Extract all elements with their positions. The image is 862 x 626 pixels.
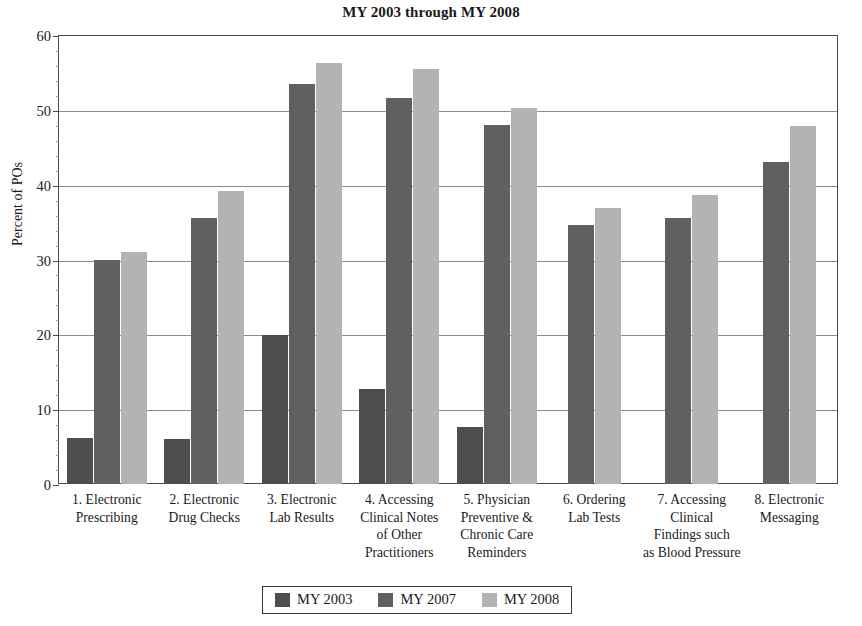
y-tick-label: 20 [37, 327, 52, 344]
bar-group [643, 35, 741, 484]
legend-label: MY 2008 [504, 591, 559, 608]
bar-my-2007 [386, 98, 412, 484]
bar-my-2007 [289, 84, 315, 484]
bar-my-2008 [595, 208, 621, 484]
bar-my-2003 [359, 389, 385, 484]
x-label-line: 2. Electronic [148, 491, 262, 509]
y-tick-label: 60 [37, 28, 52, 45]
x-label-line: Preventive & [440, 509, 554, 527]
bar-my-2003 [164, 439, 190, 484]
x-label-line: 8. Electronic [733, 491, 847, 509]
bar-my-2003 [262, 335, 288, 484]
y-tick-label: 30 [37, 252, 52, 269]
x-label-line: Findings such [635, 526, 749, 544]
bar-my-2007 [665, 218, 691, 484]
bar-my-2008 [218, 191, 244, 484]
x-label-line: 7. Accessing [635, 491, 749, 509]
bars-layer [58, 35, 838, 484]
x-axis-category-label: 8. ElectronicMessaging [733, 491, 847, 526]
bar-my-2008 [316, 63, 342, 484]
x-label-line: Practitioners [343, 544, 457, 562]
x-label-line: Lab Results [245, 509, 359, 527]
y-axis-label: Percent of POs [10, 134, 26, 274]
y-tick-label: 10 [37, 402, 52, 419]
x-label-line: Prescribing [50, 509, 164, 527]
x-label-line: 3. Electronic [245, 491, 359, 509]
y-tick-mark [53, 485, 59, 486]
x-label-line: of Other [343, 526, 457, 544]
x-label-line: 4. Accessing [343, 491, 457, 509]
bar-group [546, 35, 644, 484]
bar-my-2003 [457, 427, 483, 484]
bar-my-2008 [511, 108, 537, 484]
y-tick-label: 40 [37, 177, 52, 194]
legend-swatch-icon [275, 593, 290, 607]
bar-my-2007 [94, 260, 120, 485]
x-label-line: Drug Checks [148, 509, 262, 527]
x-axis-category-label: 7. AccessingClinicalFindings suchas Bloo… [635, 491, 749, 561]
bar-my-2007 [568, 225, 594, 484]
bar-my-2008 [692, 195, 718, 484]
bar-group [58, 35, 156, 484]
x-axis-category-label: 1. ElectronicPrescribing [50, 491, 164, 526]
bar-group [741, 35, 839, 484]
x-axis-labels: 1. ElectronicPrescribing2. ElectronicDru… [58, 491, 838, 573]
legend-label: MY 2007 [400, 591, 455, 608]
legend-item[interactable]: MY 2007 [378, 591, 455, 608]
y-tick-label: 50 [37, 102, 52, 119]
x-label-line: Lab Tests [538, 509, 652, 527]
x-axis-category-label: 4. AccessingClinical Notesof OtherPracti… [343, 491, 457, 561]
bar-my-2008 [790, 126, 816, 484]
bar-my-2008 [413, 69, 439, 484]
legend-swatch-icon [378, 593, 393, 607]
x-axis-category-label: 6. OrderingLab Tests [538, 491, 652, 526]
x-axis-category-label: 3. ElectronicLab Results [245, 491, 359, 526]
bar-group [253, 35, 351, 484]
bar-my-2007 [763, 162, 789, 484]
legend-label: MY 2003 [297, 591, 352, 608]
bar-my-2007 [484, 125, 510, 484]
chart-legend: MY 2003MY 2007MY 2008 [262, 586, 572, 614]
x-label-line: 1. Electronic [50, 491, 164, 509]
chart-title: MY 2003 through MY 2008 [0, 4, 862, 21]
x-axis-category-label: 2. ElectronicDrug Checks [148, 491, 262, 526]
bar-my-2007 [191, 218, 217, 484]
x-label-line: 6. Ordering [538, 491, 652, 509]
x-label-line: Clinical Notes [343, 509, 457, 527]
legend-swatch-icon [482, 593, 497, 607]
legend-item[interactable]: MY 2008 [482, 591, 559, 608]
legend-item[interactable]: MY 2003 [275, 591, 352, 608]
x-label-line: Clinical [635, 509, 749, 527]
bar-my-2008 [121, 252, 147, 484]
x-label-line: 5. Physician [440, 491, 554, 509]
bar-group [156, 35, 254, 484]
x-label-line: Chronic Care [440, 526, 554, 544]
bar-chart: MY 2003 through MY 2008 Percent of POs 0… [0, 0, 862, 626]
x-axis-category-label: 5. PhysicianPreventive &Chronic CareRemi… [440, 491, 554, 561]
bar-my-2003 [67, 438, 93, 484]
bar-group [351, 35, 449, 484]
x-label-line: Messaging [733, 509, 847, 527]
x-label-line: Reminders [440, 544, 554, 562]
x-label-line: as Blood Pressure [635, 544, 749, 562]
bar-group [448, 35, 546, 484]
